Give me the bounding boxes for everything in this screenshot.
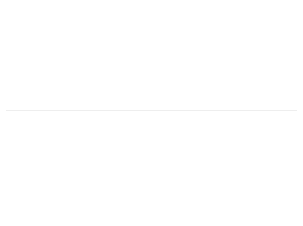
top-panel-oscillogram — [0, 0, 303, 113]
bottom-panel-chromatogram — [0, 113, 303, 226]
two-panel-figure — [0, 0, 303, 226]
bottom-panel-svg — [0, 113, 303, 226]
top-panel-svg — [0, 0, 303, 113]
